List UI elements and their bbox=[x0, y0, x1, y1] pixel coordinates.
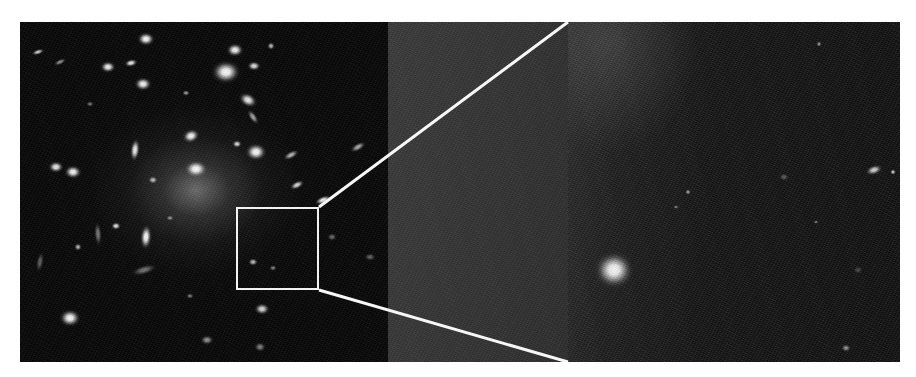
galaxy-source bbox=[114, 107, 156, 192]
galaxy-source bbox=[94, 241, 195, 300]
galaxy-source bbox=[205, 26, 266, 74]
galaxy-source bbox=[258, 129, 325, 181]
cutout-source bbox=[869, 70, 900, 180]
galaxy-source bbox=[207, 63, 290, 137]
galaxy-source bbox=[81, 47, 135, 88]
cutout-source bbox=[806, 215, 826, 229]
galaxy-source bbox=[230, 49, 278, 83]
galaxy-source bbox=[122, 192, 169, 283]
galaxy-source bbox=[77, 94, 104, 114]
galaxy-source bbox=[20, 35, 64, 69]
galaxy-source bbox=[20, 223, 60, 302]
galaxy-source bbox=[224, 84, 281, 149]
galaxy-source bbox=[136, 167, 170, 194]
galaxy-source bbox=[350, 244, 389, 271]
film-grain-overlay-mid bbox=[388, 22, 568, 362]
galaxy-source bbox=[240, 330, 281, 362]
galaxy-source bbox=[220, 131, 254, 158]
galaxy-source bbox=[155, 139, 237, 200]
cutout-source bbox=[678, 182, 698, 202]
galaxy-source bbox=[177, 286, 204, 306]
galaxy-source bbox=[65, 234, 92, 261]
survey-region-box bbox=[236, 207, 319, 290]
galaxy-source bbox=[33, 288, 108, 349]
galaxy-source bbox=[325, 120, 388, 174]
galaxy-source bbox=[34, 43, 86, 81]
galaxy-source bbox=[154, 103, 228, 169]
panel-wide-cluster-field bbox=[20, 22, 388, 362]
galaxy-source bbox=[235, 289, 289, 330]
cutout-source bbox=[568, 206, 682, 335]
astronomical-figure bbox=[0, 0, 916, 377]
panel-zoom-wedge bbox=[388, 22, 568, 362]
cutout-source bbox=[841, 257, 875, 284]
galaxy-source bbox=[175, 31, 277, 113]
galaxy-source bbox=[183, 323, 231, 357]
cutout-source bbox=[767, 164, 801, 191]
galaxy-source bbox=[113, 60, 174, 108]
galaxy-source bbox=[315, 224, 349, 251]
galaxy-source bbox=[105, 45, 158, 81]
cutout-source bbox=[840, 144, 900, 195]
galaxy-source bbox=[219, 122, 294, 183]
cutout-source bbox=[809, 34, 829, 54]
galaxy-source bbox=[173, 83, 200, 103]
galaxy-source bbox=[43, 148, 104, 196]
cutout-source bbox=[829, 335, 863, 362]
galaxy-source bbox=[157, 208, 184, 228]
galaxy-source bbox=[258, 33, 285, 60]
cutout-source bbox=[666, 200, 686, 214]
image-plate bbox=[20, 22, 900, 362]
galaxy-source bbox=[81, 189, 114, 279]
film-grain-overlay-zoom bbox=[568, 22, 900, 362]
galaxy-source bbox=[99, 213, 133, 240]
galaxy-source bbox=[267, 161, 327, 209]
galaxy-source bbox=[29, 147, 83, 188]
galaxy-source bbox=[116, 22, 177, 63]
film-grain-overlay-wide bbox=[20, 22, 388, 362]
cutout-source bbox=[883, 162, 900, 182]
panel-magnified-cutout bbox=[568, 22, 900, 362]
